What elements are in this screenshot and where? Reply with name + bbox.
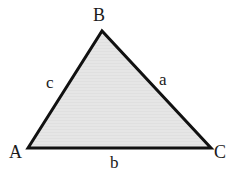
vertex-label-c: C: [214, 144, 226, 161]
side-label-b: b: [110, 154, 119, 171]
triangle-polygon: [28, 31, 211, 148]
side-label-c: c: [46, 74, 54, 91]
side-label-a: a: [159, 71, 167, 88]
triangle-shape: [0, 0, 233, 176]
triangle-diagram: B A C c a b: [0, 0, 233, 176]
vertex-label-b: B: [93, 7, 105, 24]
vertex-label-a: A: [9, 144, 22, 161]
